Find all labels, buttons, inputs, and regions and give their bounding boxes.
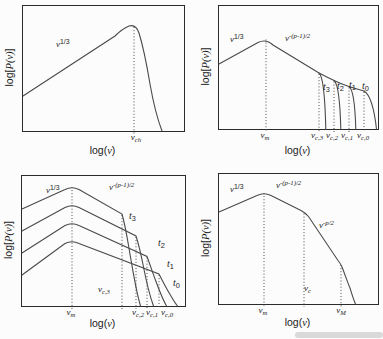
slope-label-nu-one-third: ν1/3 xyxy=(230,34,244,44)
freq-label-nu-c-inner: νc xyxy=(304,283,311,293)
y-axis-label-post: ] xyxy=(3,49,15,52)
y-axis-label: log[P(ν)] xyxy=(2,175,14,305)
y-axis-label: log[P(ν)] xyxy=(199,173,211,303)
y-axis-label-math: P(ν) xyxy=(4,51,15,69)
slope-label-nu-minus-p-2: ν-p/2 xyxy=(319,220,334,230)
plot-area-top-left: ν1/3 xyxy=(22,5,185,132)
x-axis-label: log(ν) xyxy=(22,144,183,156)
freq-label-nu-ch: νch xyxy=(131,132,141,142)
time-label-t0: t0 xyxy=(362,80,369,91)
time-label-t1: t1 xyxy=(349,79,356,90)
scan-artifact xyxy=(295,332,383,338)
y-axis-label: log[P(ν)] xyxy=(3,5,15,130)
time-label-t2: t2 xyxy=(337,80,344,91)
time-label-t1: t1 xyxy=(167,258,174,269)
freq-label-nu-M: νM xyxy=(336,305,346,315)
slope-label-nu-minus-p-1-2: ν-(p-1)/2 xyxy=(285,33,310,43)
y-axis-label: log[P(ν)] xyxy=(199,5,211,128)
freq-label-nu-c0: νc,0 xyxy=(357,130,369,140)
time-label-t0: t0 xyxy=(173,277,180,288)
slope-label-nu-one-third: ν1/3 xyxy=(230,184,244,194)
spectrum-curves-top-right xyxy=(219,6,378,129)
plot-area-top-right: ν1/3 ν-(p-1)/2 t3 t2 t1 t0 xyxy=(218,5,379,130)
slope-label-nu-minus-p-1-2: ν-(p-1)/2 xyxy=(276,180,301,190)
freq-label-nu-c3: νc,3 xyxy=(311,130,323,140)
plot-area-bottom-right: ν1/3 ν-(p-1)/2 ν-p/2 νc xyxy=(218,173,379,305)
x-ticks-top-right: νm νc,3 νc,2 νc,1 νc,0 xyxy=(218,130,377,143)
time-label-t3: t3 xyxy=(323,81,330,92)
freq-label-nu-m: νm xyxy=(259,305,268,315)
freq-label-nu-c2: νc,2 xyxy=(132,307,144,317)
x-axis-label: log(ν) xyxy=(218,144,377,156)
spectrum-curves-top-left xyxy=(23,6,184,131)
slope-label-nu-minus-p-1-2: ν-(p-1)/2 xyxy=(109,182,134,192)
plot-area-bottom-left: ν1/3 ν-(p-1)/2 t3 t2 t1 t0 νc,3 xyxy=(21,175,186,307)
freq-label-nu-m: νm xyxy=(67,307,76,317)
freq-label-nu-c0: νc,0 xyxy=(161,307,173,317)
time-label-t3: t3 xyxy=(129,210,136,221)
freq-label-nu-c1: νc,1 xyxy=(341,130,353,140)
freq-label-nu-m: νm xyxy=(261,130,270,140)
x-axis-label: log(ν) xyxy=(21,317,184,329)
freq-label-nu-c1: νc,1 xyxy=(146,307,158,317)
slope-label-nu-one-third: ν1/3 xyxy=(46,185,60,195)
time-label-t2: t2 xyxy=(158,237,165,248)
slope-label-nu-one-third: ν1/3 xyxy=(56,39,70,49)
y-axis-label-pre: log[ xyxy=(3,70,15,87)
x-axis-label: log(ν) xyxy=(218,316,377,328)
freq-label-nu-c3-inner: νc,3 xyxy=(98,284,110,294)
freq-label-nu-c2: νc,2 xyxy=(326,130,338,140)
figure-four-panel-synchrotron-spectra: log[P(ν)] ν1/3 νch log(ν) log[P(ν)] ν1/3… xyxy=(0,0,383,339)
